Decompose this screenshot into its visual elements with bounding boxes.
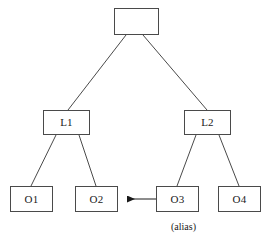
alias-caption: (alias): [171, 221, 196, 232]
node-l2[interactable]: L2: [184, 110, 231, 135]
node-o1[interactable]: O1: [10, 186, 53, 212]
edge-l2-o4: [219, 135, 239, 186]
edge-l1-o2: [79, 135, 96, 186]
edge-l2-o3: [177, 135, 196, 186]
node-l1[interactable]: L1: [43, 110, 90, 135]
diagram-canvas: L1 L2 O1 O2 O3 O4 (alias): [0, 0, 274, 248]
node-o3[interactable]: O3: [156, 186, 199, 212]
edge-root-l2: [143, 35, 207, 110]
node-l1-label: L1: [60, 117, 73, 128]
node-o2-label: O2: [90, 194, 104, 205]
edge-root-l1: [68, 35, 126, 110]
node-o1-label: O1: [25, 194, 39, 205]
node-l2-label: L2: [201, 117, 214, 128]
node-o3-label: O3: [171, 194, 185, 205]
node-o2[interactable]: O2: [75, 186, 118, 212]
node-o4[interactable]: O4: [218, 186, 261, 212]
node-o4-label: O4: [233, 194, 247, 205]
node-root[interactable]: [114, 8, 159, 35]
edge-l1-o1: [31, 135, 56, 186]
